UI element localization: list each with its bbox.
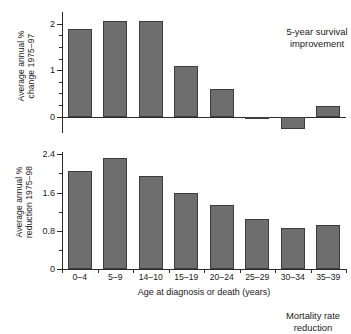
bar [210,89,234,117]
bar [68,29,92,116]
x-axis-category-labels: 0–45–914–1015–1920–2425–2930–3435–39 [62,272,346,285]
x-axis-title: Age at diagnosis or death (years) [62,287,346,297]
bar [245,219,269,269]
bar [103,21,127,116]
bar-series-bottom [62,152,346,269]
bar [139,21,163,116]
bar [139,176,163,269]
x-axis-label: 15–19 [174,272,198,282]
x-axis-label: 0–4 [73,272,87,282]
plot-area-top: 012 5-year survival improvement [62,12,346,133]
bar [316,225,340,269]
bar [281,228,305,269]
bar [174,66,198,117]
x-axis-label: 30–34 [281,272,305,282]
bar [245,117,269,120]
bar [68,171,92,269]
annotation-mortality-reduction: Mortality rate reduction [254,310,351,334]
x-axis-label: 20–24 [210,272,234,282]
y-tick-label: 0 [50,264,55,274]
bar [281,117,305,129]
y-tick-label: 1.6 [42,188,55,198]
bar [174,193,198,269]
x-axis-label: 35–39 [316,272,340,282]
x-axis-label: 5–9 [108,272,122,282]
y-axis-title-top: Average annual % change 1975–97 [4,0,48,134]
plot-area-bottom: 00.81.62.4 Mortality rate reduction [62,152,346,269]
panel-mortality-reduction: Average annual % reduction 1975–98 00.81… [0,146,351,274]
y-tick-label: 0 [50,112,55,122]
y-tick-label: 1 [50,65,55,75]
y-tick-label: 2.4 [42,149,55,159]
x-axis-label: 25–29 [245,272,269,282]
x-axis-label: 14–10 [139,272,163,282]
annotation-survival-improvement: 5-year survival improvement [258,26,351,50]
bar [210,205,234,269]
y-tick-label: 0.8 [42,226,55,236]
panel-survival-improvement: Average annual % change 1975–97 012 5-ye… [0,4,351,140]
x-tick [346,269,347,273]
bar [103,158,127,269]
y-axis-title-bottom: Average annual % reduction 1975–98 [2,134,46,270]
bar [316,106,340,116]
y-tick-label: 2 [50,19,55,29]
